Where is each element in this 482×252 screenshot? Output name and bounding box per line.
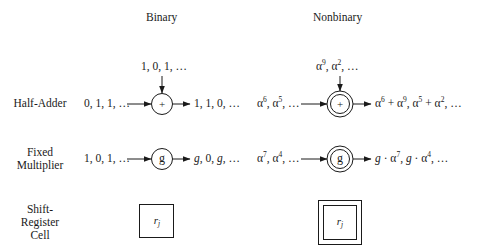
binary-half-adder-left-input: 0, 1, 1, … — [84, 97, 130, 110]
nonbinary-multiplier-output: g · α7, g · α4, … — [375, 152, 448, 165]
nonbinary-half-adder-top-input: α9, α2, … — [316, 60, 359, 73]
binary-half-adder-plus-symbol: + — [155, 98, 169, 110]
binary-multiplier-g-symbol: g — [155, 152, 169, 164]
nonbinary-half-adder-output: α6 + α9, α5 + α2, … — [375, 97, 462, 110]
nonbinary-multiplier-g-symbol: g — [333, 152, 347, 164]
diagram-graphics — [0, 0, 482, 252]
binary-shift-register-symbol: rj — [145, 214, 169, 226]
binary-half-adder-output: 1, 1, 0, … — [194, 97, 240, 110]
nonbinary-half-adder-plus-symbol: + — [333, 98, 347, 110]
nonbinary-multiplier-input: α7, α4, … — [257, 152, 300, 165]
binary-multiplier-output: g, 0, g, … — [194, 152, 240, 165]
nonbinary-half-adder-left-input: α6, α5, … — [257, 97, 300, 110]
nonbinary-shift-register-symbol: rj — [328, 215, 352, 227]
binary-multiplier-input: 1, 0, 1, … — [84, 152, 130, 165]
binary-half-adder-top-input: 1, 0, 1, … — [141, 60, 187, 73]
